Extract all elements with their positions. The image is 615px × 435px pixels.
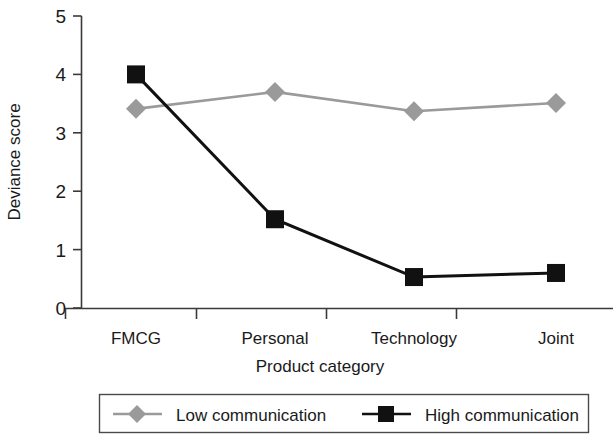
chart-figure: 5 4 3 2 1 0 Deviance score FMCG Personal… xyxy=(0,0,615,435)
data-point-square xyxy=(547,264,565,282)
data-point-square xyxy=(127,65,145,83)
data-point-square xyxy=(266,210,284,228)
square-marker-icon xyxy=(378,406,394,422)
x-category-label-fmcg: FMCG xyxy=(111,329,161,348)
chart-svg: 5 4 3 2 1 0 Deviance score FMCG Personal… xyxy=(0,0,615,435)
y-tick-label-1: 1 xyxy=(55,240,66,261)
y-tick-label-0: 0 xyxy=(55,298,66,319)
y-tick-label-5: 5 xyxy=(55,6,66,27)
data-point-square xyxy=(405,268,423,286)
y-tick-label-4: 4 xyxy=(55,64,66,85)
x-category-label-personal: Personal xyxy=(241,329,308,348)
y-tick-label-2: 2 xyxy=(55,181,66,202)
y-axis-title: Deviance score xyxy=(5,103,24,220)
legend-label-low: Low communication xyxy=(176,406,326,425)
legend-label-high: High communication xyxy=(425,406,579,425)
y-tick-label-3: 3 xyxy=(55,123,66,144)
x-category-label-joint: Joint xyxy=(538,329,574,348)
x-axis-title: Product category xyxy=(256,357,385,376)
x-category-label-technology: Technology xyxy=(371,329,458,348)
